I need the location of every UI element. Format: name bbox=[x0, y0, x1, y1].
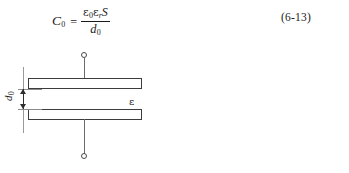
equals-sign: = bbox=[70, 16, 77, 28]
formula-fraction: ε0εrS d0 bbox=[81, 6, 110, 37]
dimension-arrowhead-down-icon bbox=[20, 104, 26, 109]
dimension-arrowhead-up-icon bbox=[20, 89, 26, 94]
bottom-terminal-icon bbox=[81, 153, 87, 159]
formula-lhs-symbol: C bbox=[52, 13, 61, 28]
distance-subscript: 0 bbox=[97, 28, 101, 37]
gap-dimension-subscript: 0 bbox=[7, 91, 16, 95]
dimension-extension-line-bottom bbox=[18, 109, 42, 110]
formula-denominator: d0 bbox=[88, 22, 103, 37]
formula-lhs-subscript: 0 bbox=[61, 20, 65, 29]
figure-page: C0 = ε0εrS d0 (6-13) d0 ε bbox=[0, 0, 349, 173]
distance-symbol: d bbox=[90, 22, 96, 36]
area-symbol: S bbox=[102, 5, 108, 19]
gap-dimension-label: d0 bbox=[2, 85, 16, 107]
epsilon-r-symbol: ε bbox=[93, 6, 99, 19]
formula-lhs: C0 bbox=[52, 14, 65, 29]
top-lead-line bbox=[84, 57, 85, 79]
capacitor-plate-top bbox=[28, 78, 142, 89]
dielectric-epsilon-label: ε bbox=[129, 96, 134, 107]
capacitor-plate-bottom bbox=[28, 109, 142, 120]
bottom-lead-line bbox=[84, 119, 85, 154]
capacitor-diagram: d0 ε bbox=[0, 45, 349, 173]
gap-dimension-symbol: d bbox=[2, 96, 14, 102]
capacitance-formula: C0 = ε0εrS d0 bbox=[52, 6, 110, 37]
equation-number: (6-13) bbox=[281, 11, 311, 23]
epsilon-zero-symbol: ε bbox=[83, 6, 89, 19]
formula-numerator: ε0εrS bbox=[81, 6, 110, 21]
